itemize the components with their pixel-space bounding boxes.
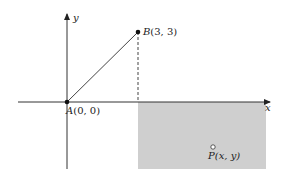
y-axis-label: y [72,12,79,23]
label-point-p: P(x, y) [207,150,240,161]
point-a [65,100,70,105]
point-a-name: A [65,105,73,116]
point-a-coords: (0, 0) [73,105,100,116]
label-point-b: B(3, 3) [142,26,177,37]
shaded-region [138,102,266,169]
coordinate-diagram: y x B(3, 3) A(0, 0) P(x, y) [0,0,285,176]
point-p [211,145,215,149]
point-b-name: B [142,26,150,37]
label-point-a: A(0, 0) [65,105,100,116]
x-axis-label: x [265,102,271,113]
segment-ab [67,32,138,102]
point-b [136,30,141,35]
point-b-coords: (3, 3) [150,26,177,37]
